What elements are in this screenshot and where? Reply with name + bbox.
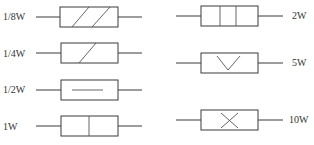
resistor-symbol-1w: 1W: [3, 116, 142, 136]
resistor-body: [201, 53, 258, 73]
symbol-label: 10W: [289, 114, 309, 125]
resistor-body: [61, 43, 118, 63]
symbol-label: 1/8W: [3, 11, 26, 22]
resistor-symbol-5w: 5W: [176, 53, 307, 73]
symbol-label: 1/2W: [3, 84, 26, 95]
resistor-symbol-1-8w: 1/8W: [3, 7, 142, 27]
resistor-power-rating-diagram: 1/8W 1/4W 1/2W 1W 2W: [0, 0, 314, 145]
resistor-body: [60, 7, 118, 27]
resistor-symbol-1-2w: 1/2W: [3, 80, 142, 100]
resistor-body: [201, 6, 258, 26]
resistor-symbol-10w: 10W: [176, 110, 309, 130]
symbol-label: 1/4W: [3, 48, 26, 59]
symbol-label: 1W: [3, 121, 18, 132]
resistor-symbol-2w: 2W: [176, 6, 307, 26]
symbol-label: 2W: [292, 10, 307, 21]
resistor-symbol-1-4w: 1/4W: [3, 43, 142, 63]
symbol-label: 5W: [292, 57, 307, 68]
resistor-body: [61, 116, 118, 136]
